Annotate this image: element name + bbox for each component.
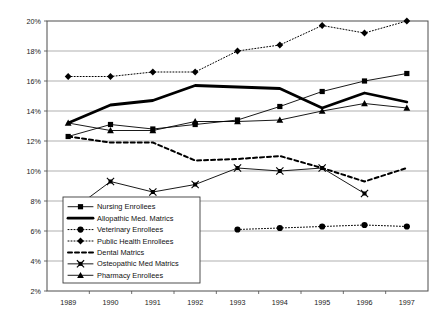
data-point-marker	[192, 69, 199, 76]
data-point-marker	[234, 48, 241, 55]
x-axis-tick-label: 1993	[230, 298, 246, 307]
legend-label: Dental Matrics	[97, 248, 145, 257]
data-point-marker	[277, 225, 283, 231]
legend-label: Pharmacy Enrollees	[97, 271, 163, 280]
y-axis-tick-label: 12%	[27, 137, 42, 146]
data-point-marker	[403, 18, 410, 25]
data-point-marker	[78, 204, 83, 209]
y-axis-tick-label: 14%	[27, 107, 42, 116]
x-axis-tick-label: 1995	[314, 298, 330, 307]
data-point-marker	[234, 226, 240, 232]
data-point-marker	[319, 223, 325, 229]
y-axis-tick-label: 18%	[27, 47, 42, 56]
series-line	[68, 137, 407, 182]
data-point-marker	[404, 223, 410, 229]
y-axis-labels-group: 20%18%16%14%12%10%8%6%4%2%	[27, 17, 42, 296]
x-axis-tick-label: 1996	[357, 298, 373, 307]
x-axis-tick-label: 1989	[60, 298, 76, 307]
y-axis-tick-label: 20%	[27, 17, 42, 26]
y-axis-tick-label: 16%	[27, 77, 42, 86]
chart-container: 20%18%16%14%12%10%8%6%4%2% 1989199019911…	[0, 0, 443, 317]
legend-label: Nursing Enrollees	[97, 202, 156, 211]
y-axis-tick-label: 2%	[31, 287, 42, 296]
data-point-marker	[65, 73, 72, 80]
data-point-marker	[107, 178, 114, 185]
data-point-marker	[320, 89, 325, 94]
data-point-marker	[361, 30, 368, 37]
data-point-marker	[149, 69, 156, 76]
data-point-marker	[77, 226, 83, 232]
x-axis-tick-label: 1992	[187, 298, 203, 307]
series-line	[68, 86, 407, 124]
series-line	[68, 104, 407, 131]
x-axis-tick-label: 1997	[399, 298, 415, 307]
y-axis-tick-label: 8%	[31, 197, 42, 206]
data-point-marker	[277, 104, 282, 109]
data-point-marker	[361, 100, 368, 106]
data-point-marker	[276, 42, 283, 49]
data-point-marker	[404, 71, 409, 76]
data-point-marker	[361, 190, 368, 197]
x-axis-tick-label: 1991	[145, 298, 161, 307]
data-point-marker	[107, 73, 114, 80]
legend-label: Veterinary Enrollees	[97, 225, 163, 234]
line-chart: 20%18%16%14%12%10%8%6%4%2% 1989199019911…	[0, 0, 443, 317]
series-public-health-enrollees	[65, 18, 410, 80]
chart-legend: Nursing EnrolleesAllopathic Med. Matrics…	[63, 197, 200, 283]
legend-label: Osteopathic Med Matrics	[97, 259, 179, 268]
x-axis-tick-label: 1994	[272, 298, 288, 307]
y-axis-tick-label: 4%	[31, 257, 42, 266]
y-axis-tick-label: 10%	[27, 167, 42, 176]
data-point-marker	[108, 122, 113, 127]
data-point-marker	[361, 222, 367, 228]
data-point-marker	[319, 22, 326, 29]
x-axis-labels-group: 198919901991199219931994199519961997	[60, 298, 415, 307]
series-dental-matrics	[68, 137, 407, 182]
legend-label: Public Health Enrollees	[97, 237, 174, 246]
y-axis-tick-label: 6%	[31, 227, 42, 236]
series-allopathic-med-matrics	[68, 86, 407, 124]
data-point-marker	[362, 78, 367, 83]
legend-label: Allopathic Med. Matrics	[97, 214, 174, 223]
x-axis-tick-label: 1990	[103, 298, 119, 307]
